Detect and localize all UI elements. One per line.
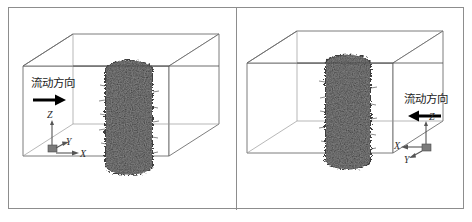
axis-label-y-right: Y: [404, 155, 411, 165]
figure-frame: 流动方向 Z Y: [8, 7, 464, 209]
cylinder-left: [99, 60, 159, 175]
panel-right: 流动方向 Z X: [237, 8, 464, 210]
axis-label-x-left: X: [79, 148, 87, 159]
panel-left: 流动方向 Z Y: [9, 8, 236, 210]
flow-label-left: 流动方向: [31, 76, 75, 90]
flow-label-right: 流动方向: [404, 92, 448, 106]
axis-label-z-left: Z: [47, 109, 53, 120]
cylinder-right: [319, 55, 377, 170]
axis-label-z-right: Z: [429, 111, 435, 122]
axis-label-x-right: X: [393, 140, 401, 151]
figure-container: 流动方向 Z Y: [0, 0, 472, 222]
